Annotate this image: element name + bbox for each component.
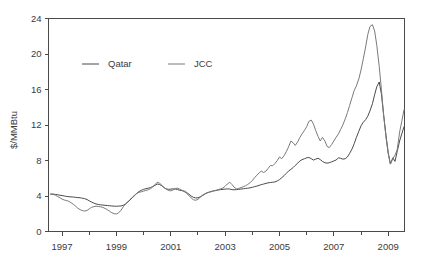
x-tick-label: 2009 xyxy=(378,241,399,252)
legend-label-jcc: JCC xyxy=(194,58,213,69)
y-tick-label: 20 xyxy=(31,48,42,59)
x-tick-label: 2003 xyxy=(215,241,236,252)
y-tick-label: 16 xyxy=(31,84,42,95)
y-axis-title: $/MMBtu xyxy=(8,111,19,149)
x-tick-label: 1997 xyxy=(52,241,73,252)
line-chart: 04812162024 1997199920012003200520072009… xyxy=(0,0,423,267)
x-tick-label: 1999 xyxy=(106,241,127,252)
x-axis: 1997199920012003200520072009 xyxy=(52,232,399,252)
y-tick-label: 24 xyxy=(31,13,42,24)
chart-legend: QatarJCC xyxy=(82,58,213,69)
x-tick-label: 2007 xyxy=(323,241,344,252)
x-tick-label: 2001 xyxy=(160,241,181,252)
y-axis: 04812162024 xyxy=(31,13,49,237)
y-tick-label: 12 xyxy=(31,119,42,130)
x-tick-label: 2005 xyxy=(269,241,290,252)
plot-frame xyxy=(49,19,405,232)
y-axis-title-label: $/MMBtu xyxy=(8,111,19,149)
chart-container: 04812162024 1997199920012003200520072009… xyxy=(0,0,423,267)
series-lines xyxy=(51,25,404,214)
y-tick-label: 4 xyxy=(36,190,41,201)
series-line-jcc xyxy=(51,25,404,214)
y-tick-label: 8 xyxy=(36,155,41,166)
y-tick-label: 0 xyxy=(36,226,41,237)
legend-label-qatar: Qatar xyxy=(108,58,132,69)
